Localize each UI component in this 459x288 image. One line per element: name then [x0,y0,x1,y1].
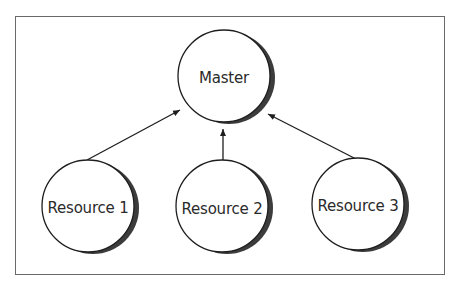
arrow-resource1-to-master [87,110,180,160]
node-label-resource1: Resource 1 [47,199,128,217]
diagram-canvas [0,0,459,288]
node-label-master: Master [199,69,249,87]
node-label-resource3: Resource 3 [317,197,398,215]
node-label-resource2: Resource 2 [181,200,262,218]
arrow-resource3-to-master [268,114,358,160]
